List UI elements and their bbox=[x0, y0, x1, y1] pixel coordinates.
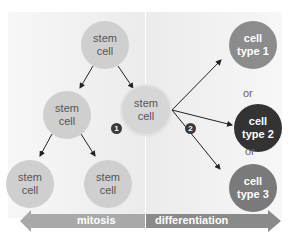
arrow-top-to-midleft bbox=[80, 66, 93, 88]
stem-cell-bottom-middle: stemcell bbox=[84, 160, 132, 208]
differentiation-label: differentiation bbox=[155, 212, 228, 228]
cell-type-3: celltype 3 bbox=[229, 164, 277, 212]
cell-label: type 1 bbox=[237, 45, 269, 58]
cell-label: cell bbox=[237, 175, 269, 188]
arrow-center-to-type3 bbox=[172, 110, 220, 169]
stem-cell-mid-left: stemcell bbox=[43, 91, 91, 139]
mitosis-label: mitosis bbox=[77, 212, 116, 228]
stem-cell-diagram: stemcell stemcell stemcell stemcell stem… bbox=[0, 0, 290, 248]
cell-label: cell bbox=[237, 32, 269, 45]
cell-label: cell bbox=[93, 45, 117, 58]
cell-label: type 3 bbox=[237, 188, 269, 201]
arrow-top-to-center bbox=[118, 66, 133, 88]
step-badge-2: 2 bbox=[185, 123, 196, 134]
stem-cell-top: stemcell bbox=[81, 21, 129, 69]
stem-cell-center: stemcell bbox=[122, 86, 170, 134]
cell-label: stem bbox=[96, 171, 120, 184]
cell-label: stem bbox=[18, 171, 42, 184]
arrow-center-to-type2 bbox=[172, 110, 232, 125]
cell-label: stem bbox=[134, 97, 158, 110]
or-label-1: or bbox=[243, 87, 253, 99]
cell-type-2: celltype 2 bbox=[234, 104, 282, 152]
cell-label: type 2 bbox=[242, 128, 274, 141]
cell-label: cell bbox=[18, 184, 42, 197]
or-label-2: or bbox=[245, 145, 255, 157]
cell-label: stem bbox=[93, 32, 117, 45]
stem-cell-bottom-left: stemcell bbox=[6, 160, 54, 208]
cell-label: cell bbox=[55, 115, 79, 128]
cell-type-1: celltype 1 bbox=[229, 21, 277, 69]
step-badge-1: 1 bbox=[111, 123, 122, 134]
cell-label: cell bbox=[242, 115, 274, 128]
arrow-center-to-type1 bbox=[172, 60, 221, 110]
cell-label: stem bbox=[55, 102, 79, 115]
arrow-midleft-to-bottomleft bbox=[40, 134, 52, 156]
arrow-midleft-to-bottommiddle bbox=[81, 134, 95, 156]
cell-label: cell bbox=[134, 110, 158, 123]
cell-label: cell bbox=[96, 184, 120, 197]
